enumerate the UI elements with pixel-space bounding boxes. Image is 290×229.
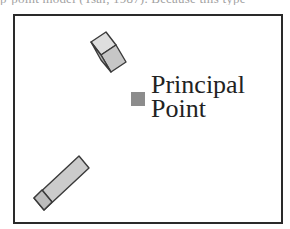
diagram-shapes xyxy=(0,0,290,229)
principal-point-label: Principal Point xyxy=(151,73,245,121)
principal-point-marker xyxy=(131,92,145,106)
lower-block xyxy=(34,156,89,210)
upper-block xyxy=(91,32,126,72)
principal-point-label-line2: Point xyxy=(151,97,245,121)
